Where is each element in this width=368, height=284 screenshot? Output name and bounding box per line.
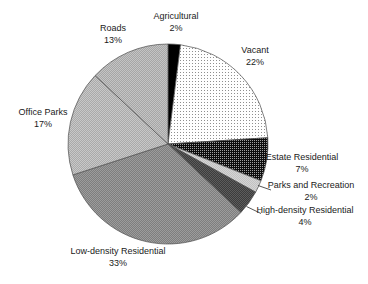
slice-label-roads: Roads 13% — [100, 23, 126, 46]
land-use-pie-chart-figure: Agricultural 2% Vacant 22% Estate Reside… — [0, 0, 368, 284]
slice-label-pct: 17% — [19, 119, 68, 131]
slice-label-text: Agricultural — [153, 11, 198, 23]
slice-label-text: Parks and Recreation — [268, 180, 355, 192]
slice-label-pct: 2% — [153, 23, 198, 35]
slice-label-text: Office Parks — [19, 107, 68, 119]
slice-label-agricultural: Agricultural 2% — [153, 11, 198, 34]
pie-chart — [0, 0, 368, 284]
slice-label-office-parks: Office Parks 17% — [19, 107, 68, 130]
slice-label-text: Vacant — [241, 45, 268, 57]
slice-label-vacant: Vacant 22% — [241, 45, 268, 68]
slice-label-pct: 13% — [100, 35, 126, 47]
slice-label-pct: 4% — [256, 217, 353, 229]
slice-label-text: High-density Residential — [256, 205, 353, 217]
slice-label-low-density-residential: Low-density Residential 33% — [70, 246, 165, 269]
slice-label-pct: 2% — [268, 192, 355, 204]
slice-label-estate-residential: Estate Residential 7% — [266, 152, 339, 175]
slice-label-text: Low-density Residential — [70, 246, 165, 258]
slice-label-pct: 33% — [70, 258, 165, 270]
slice-label-high-density-residential: High-density Residential 4% — [256, 205, 353, 228]
slice-label-parks-and-recreation: Parks and Recreation 2% — [268, 180, 355, 203]
slice-label-text: Estate Residential — [266, 152, 339, 164]
slice-label-text: Roads — [100, 23, 126, 35]
slice-label-pct: 7% — [266, 164, 339, 176]
slice-label-pct: 22% — [241, 57, 268, 69]
